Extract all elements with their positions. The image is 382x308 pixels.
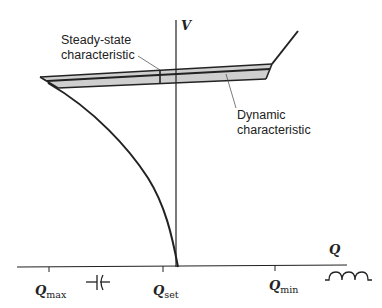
dynamic-label-line1: Dynamic <box>237 108 286 122</box>
steady-state-label-line1: Steady-state <box>61 33 131 47</box>
v-axis-label: V <box>181 18 193 33</box>
capacitor-icon <box>86 275 110 290</box>
steady-state-label-line2: characteristic <box>61 48 135 62</box>
upper-limit-line <box>272 31 298 64</box>
inductor-icon <box>325 272 372 280</box>
q-axis <box>17 265 347 267</box>
q-axis-label: Q <box>329 242 341 257</box>
dynamic-label-line2: characteristic <box>237 123 311 137</box>
qset-label: Qset <box>153 283 179 300</box>
capacitive-limit-curve <box>48 83 178 267</box>
vq-characteristic-diagram: V Q Qmax Qset Qmin Steady-state characte… <box>0 0 382 308</box>
qmin-label: Qmin <box>269 278 299 295</box>
qmax-label: Qmax <box>35 283 67 300</box>
steady-state-leader <box>138 56 160 70</box>
